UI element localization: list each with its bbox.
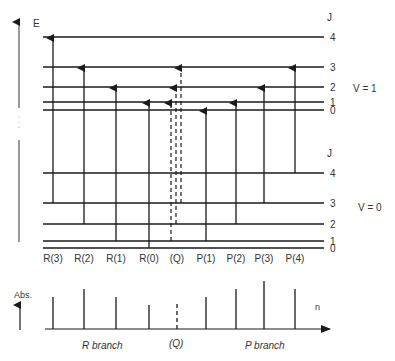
q-branch-label: (Q) xyxy=(169,338,183,349)
lower-level-j-label: 3 xyxy=(330,198,336,209)
transition-label: R(3) xyxy=(43,253,62,264)
p-branch-label: P branch xyxy=(245,340,285,351)
spectral-peaks xyxy=(53,281,295,329)
transition-label: R(1) xyxy=(106,253,125,264)
upper-state-label: V = 1 xyxy=(353,83,377,94)
transition-label: R(2) xyxy=(74,253,93,264)
energy-axis-label: E xyxy=(33,18,40,29)
transition-label: P(2) xyxy=(227,253,246,264)
lower-level-j-label: 2 xyxy=(330,219,336,230)
upper-level-j-label: 4 xyxy=(330,32,336,43)
lower-level-j-label: 4 xyxy=(330,168,336,179)
transition-label: R(0) xyxy=(139,253,158,264)
lower-state-label: V = 0 xyxy=(358,202,382,213)
spectrum: Abs. n R branch (Q) P branch xyxy=(14,281,330,351)
transition-labels: R(3)R(2)R(1)R(0)(Q)P(1)P(2)P(3)P(4) xyxy=(43,253,304,264)
j-header-lower: J xyxy=(327,148,332,159)
transition-label: P(1) xyxy=(197,253,216,264)
transition-label: P(4) xyxy=(286,253,305,264)
upper-level-j-label: 2 xyxy=(330,82,336,93)
transition-arrows xyxy=(53,38,295,248)
energy-axis: E xyxy=(18,18,40,242)
j-header-upper: J xyxy=(327,12,332,23)
absorbance-axis-label: Abs. xyxy=(14,290,32,300)
lower-level-j-label: 0 xyxy=(330,243,336,254)
transition-label: (Q) xyxy=(170,253,184,264)
energy-levels: 4321043210 xyxy=(43,32,336,254)
r-branch-label: R branch xyxy=(82,340,123,351)
transition-label: P(3) xyxy=(255,253,274,264)
energy-level-diagram: E 4321043210 J J V = 1 V = 0 R(3)R(2)R(1… xyxy=(0,0,395,361)
upper-level-j-label: 3 xyxy=(330,62,336,73)
wavenumber-axis-label: n xyxy=(315,302,320,312)
upper-level-j-label: 0 xyxy=(330,105,336,116)
